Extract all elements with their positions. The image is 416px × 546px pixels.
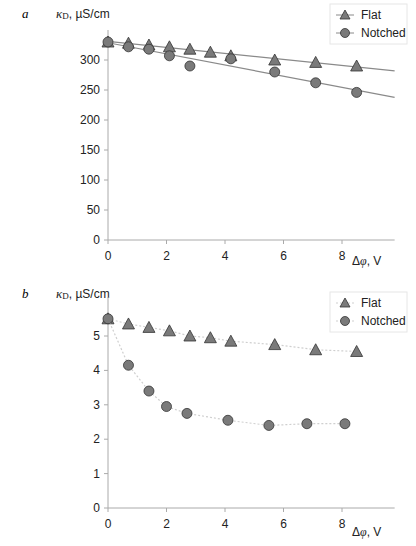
triangle-marker xyxy=(351,345,363,356)
panel-label: b xyxy=(22,286,29,301)
y-tick-label: 150 xyxy=(80,143,100,157)
circle-marker xyxy=(182,408,192,418)
circle-marker xyxy=(123,42,133,52)
legend: FlatNotched xyxy=(330,292,407,332)
circle-marker xyxy=(103,314,113,324)
y-axis-title: κD, µS/cm xyxy=(56,286,110,301)
circle-marker xyxy=(270,67,280,77)
y-tick-label: 1 xyxy=(93,467,100,481)
trend-line-flat xyxy=(108,319,357,352)
circle-marker xyxy=(352,87,362,97)
y-tick-label: 250 xyxy=(80,83,100,97)
circle-marker xyxy=(340,419,350,429)
x-tick-label: 6 xyxy=(280,517,287,531)
triangle-marker xyxy=(163,41,175,52)
triangle-marker xyxy=(184,43,196,54)
triangle-marker xyxy=(351,60,363,71)
triangle-marker xyxy=(184,330,196,341)
x-axis-title: Δφ, V xyxy=(352,254,381,268)
x-tick-label: 4 xyxy=(222,249,229,263)
trend-line-notched xyxy=(108,319,345,426)
circle-marker xyxy=(264,420,274,430)
y-tick-label: 2 xyxy=(93,432,100,446)
legend-label-flat: Flat xyxy=(361,8,382,22)
legend-label-flat: Flat xyxy=(361,296,382,310)
y-tick-label: 50 xyxy=(87,203,101,217)
triangle-marker xyxy=(310,344,322,355)
x-tick-label: 0 xyxy=(105,249,112,263)
legend-label-notched: Notched xyxy=(361,26,406,40)
y-tick-label: 3 xyxy=(93,398,100,412)
chart-panel-b: bκD, µS/cm01234502468Δφ, VFlatNotched xyxy=(22,286,407,539)
x-tick-label: 2 xyxy=(163,517,170,531)
y-tick-label: 300 xyxy=(80,53,100,67)
circle-marker xyxy=(185,61,195,71)
y-tick-label: 0 xyxy=(93,501,100,515)
y-tick-label: 100 xyxy=(80,173,100,187)
x-tick-label: 8 xyxy=(339,517,346,531)
circle-marker xyxy=(302,419,312,429)
circle-marker xyxy=(226,54,236,64)
y-tick-label: 200 xyxy=(80,113,100,127)
circle-marker xyxy=(144,386,154,396)
x-tick-label: 8 xyxy=(339,249,346,263)
circle-marker xyxy=(223,415,233,425)
x-axis-title: Δφ, V xyxy=(352,525,381,539)
circle-icon xyxy=(341,29,350,38)
figure: aκD, µS/cm05010015020025030002468Δφ, VFl… xyxy=(0,0,416,546)
x-tick-label: 6 xyxy=(280,249,287,263)
circle-marker xyxy=(162,402,172,412)
circle-marker xyxy=(164,51,174,61)
x-tick-label: 4 xyxy=(222,517,229,531)
y-tick-label: 0 xyxy=(93,233,100,247)
circle-marker xyxy=(144,44,154,54)
x-tick-label: 2 xyxy=(163,249,170,263)
chart-panel-a: aκD, µS/cm05010015020025030002468Δφ, VFl… xyxy=(22,4,407,268)
x-tick-label: 0 xyxy=(105,517,112,531)
y-axis-title: κD, µS/cm xyxy=(56,6,110,21)
y-tick-label: 4 xyxy=(93,363,100,377)
circle-marker xyxy=(311,78,321,88)
legend: FlatNotched xyxy=(330,4,407,44)
circle-marker xyxy=(103,37,113,47)
panel-label: a xyxy=(22,6,29,21)
circle-icon xyxy=(341,317,350,326)
y-tick-label: 5 xyxy=(93,329,100,343)
triangle-marker xyxy=(163,325,175,336)
legend-label-notched: Notched xyxy=(361,314,406,328)
circle-marker xyxy=(123,360,133,370)
